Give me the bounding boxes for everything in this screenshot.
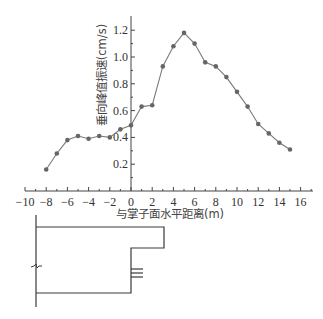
y-tick-label: 0.8 [113,77,128,91]
y-tick-label: 0.6 [113,104,128,118]
schematic-excavation-profile [36,227,164,293]
data-point [44,167,49,172]
data-point [161,64,166,69]
x-tick-label: −4 [82,195,95,209]
x-tick-label: 12 [252,195,264,209]
y-axis-title: 垂向峰值振速(cm/s) [95,24,109,126]
data-point [235,90,240,95]
data-point [150,103,155,108]
data-point [277,140,282,145]
chart: 0.20.40.60.81.01.2 −10−8−6−4−20246810121… [0,0,323,319]
break-symbol-icon [31,264,42,268]
y-tick-label: 1.2 [113,23,128,37]
x-axis-title: 与掌子面水平距离(m) [116,207,224,221]
data-point [108,135,113,140]
y-tick-label: 0.4 [113,130,128,144]
x-tick-label: −8 [40,195,53,209]
data-point [182,31,187,36]
tunnel-face-schematic [31,215,164,307]
data-point [139,104,144,109]
data-point [118,127,123,132]
data-point [288,147,293,152]
x-tick-label: 10 [231,195,243,209]
x-tick-label: −2 [103,195,116,209]
data-point [86,136,91,141]
x-tick-label: 16 [295,195,307,209]
data-point [203,60,208,65]
x-tick-label: −10 [16,195,35,209]
data-series [44,31,292,172]
data-point [245,104,250,109]
y-tick-label: 1.0 [113,50,128,64]
data-point [129,123,134,128]
data-point [214,64,219,69]
y-axis: 0.20.40.60.81.01.2 [113,16,135,191]
data-point [171,44,176,49]
data-point [55,151,60,156]
data-point [192,41,197,46]
data-point [76,134,81,139]
x-tick-label: 14 [273,195,285,209]
series-line [46,33,290,170]
data-point [224,75,229,80]
x-axis: −10−8−6−4−20246810121416 [16,187,313,209]
data-point [65,138,70,143]
data-point [267,131,272,136]
x-tick-label: −6 [61,195,74,209]
y-tick-label: 0.2 [113,157,128,171]
data-point [97,134,102,139]
data-point [256,122,261,127]
